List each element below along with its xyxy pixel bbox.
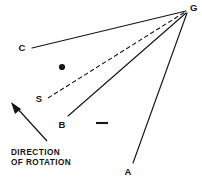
diagram-canvas: G C S B A DIRECTION OF ROTATION [0, 0, 202, 182]
point-label-g: G [190, 2, 197, 13]
rotation-arrow-shaft [17, 108, 47, 141]
ray-line-c-to-g [32, 11, 186, 48]
rotation-arrow-head [11, 102, 21, 114]
center-dot-marker [59, 64, 65, 70]
point-label-c: C [19, 42, 26, 53]
point-label-b: B [59, 119, 66, 130]
ray-line-s-to-g [48, 12, 185, 98]
ray-group [32, 11, 187, 163]
rotation-ray-diagram: G C S B A DIRECTION OF ROTATION [0, 0, 202, 182]
rotation-caption-line-1: DIRECTION [11, 148, 60, 157]
point-label-s: S [36, 93, 42, 104]
rotation-caption-line-2: OF ROTATION [11, 158, 71, 167]
rotation-direction-arrow [11, 102, 47, 141]
point-label-a: A [125, 166, 132, 177]
